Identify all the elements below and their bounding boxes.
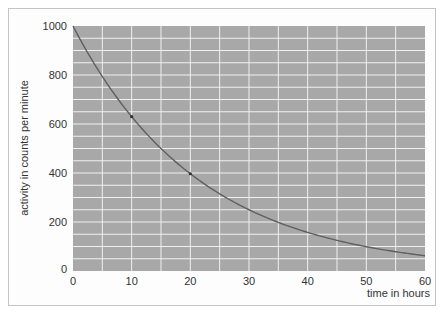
x-tick-label: 40	[302, 275, 314, 287]
y-tick-label: 1000	[43, 20, 67, 32]
x-axis-ticks: 0102030405060	[70, 275, 431, 287]
x-tick-label: 50	[360, 275, 372, 287]
y-tick-label: 0	[61, 263, 67, 275]
x-tick-label: 20	[184, 275, 196, 287]
data-point-marker	[130, 115, 133, 118]
y-axis-ticks: 02004006008001000	[43, 20, 67, 275]
x-tick-label: 0	[70, 275, 76, 287]
y-axis-label: activity in counts per minute	[18, 80, 30, 216]
x-tick-label: 60	[419, 275, 431, 287]
y-tick-label: 600	[49, 118, 67, 130]
decay-chart: 0102030405060 02004006008001000 time in …	[0, 0, 445, 314]
data-point-marker	[189, 172, 192, 175]
y-tick-label: 200	[49, 216, 67, 228]
gridlines	[73, 26, 425, 271]
x-axis-label: time in hours	[367, 287, 430, 299]
y-tick-label: 400	[49, 167, 67, 179]
x-tick-label: 30	[243, 275, 255, 287]
y-tick-label: 800	[49, 69, 67, 81]
x-tick-label: 10	[126, 275, 138, 287]
